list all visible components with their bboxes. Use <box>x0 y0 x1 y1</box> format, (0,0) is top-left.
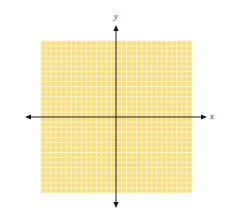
coordinate-plane <box>0 0 227 217</box>
x-axis-left-arrow-icon <box>25 114 31 119</box>
y-axis-up-arrow-icon <box>113 25 118 31</box>
y-axis-label: y <box>114 12 118 21</box>
x-axis-label: x <box>210 112 214 121</box>
x-axis-right-arrow-icon <box>201 114 207 119</box>
y-axis-down-arrow-icon <box>113 202 118 208</box>
